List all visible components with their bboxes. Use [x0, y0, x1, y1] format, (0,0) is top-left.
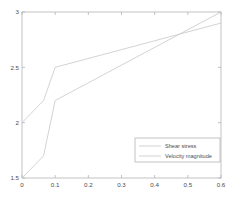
series-line-0 — [22, 23, 221, 123]
x-tick-label: 0.3 — [117, 181, 126, 188]
chart-figure: 00.10.20.30.40.50.6 1.522.53 Shear stres… — [0, 0, 238, 198]
legend-label-0: Shear stress — [165, 143, 197, 149]
x-tick-label: 0.1 — [51, 181, 60, 188]
chart-legend: Shear stressVelocity magnitude — [135, 138, 220, 162]
y-axis-tick-labels: 1.522.53 — [10, 8, 19, 181]
y-tick-label: 1.5 — [10, 174, 19, 181]
line-chart-plot: 00.10.20.30.40.50.6 1.522.53 Shear stres… — [0, 0, 238, 198]
y-tick-label: 3 — [16, 8, 20, 15]
y-tick-label: 2.5 — [10, 64, 19, 71]
x-tick-label: 0.2 — [84, 181, 93, 188]
legend-label-1: Velocity magnitude — [165, 153, 212, 159]
x-axis-tick-labels: 00.10.20.30.40.50.6 — [20, 181, 226, 188]
y-tick-label: 2 — [16, 119, 20, 126]
x-tick-label: 0.4 — [150, 181, 159, 188]
x-tick-label: 0.5 — [184, 181, 193, 188]
x-tick-label: 0 — [20, 181, 24, 188]
x-tick-label: 0.6 — [217, 181, 226, 188]
